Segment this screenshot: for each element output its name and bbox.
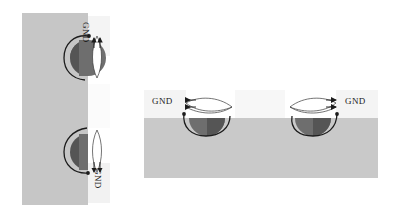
right-curve-left-dot (182, 112, 186, 116)
right-curve-right-dot (335, 112, 339, 116)
right-substrate (144, 118, 378, 178)
left-dome-bottom-inner (79, 134, 88, 170)
gnd-label-left-panel-bottom: GND (93, 168, 102, 189)
left-substrate (22, 13, 88, 205)
left-dome-top-inner (79, 40, 88, 76)
diagram-canvas (0, 0, 397, 222)
right-panel (144, 88, 378, 178)
right-oxide-center-box (235, 90, 285, 118)
gnd-label-left-panel-top: GND (81, 22, 90, 43)
left-oxide-mid-box (88, 84, 110, 128)
gnd-label-right-panel-left: GND (152, 97, 173, 106)
left-curve-bottom-dot (86, 171, 90, 175)
gnd-label-right-panel-right: GND (345, 97, 366, 106)
